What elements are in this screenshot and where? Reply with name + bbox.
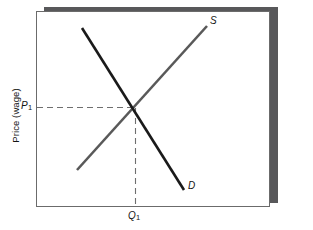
price-label-base: P [21, 100, 28, 111]
supply-curve [77, 26, 207, 170]
equilibrium-quantity-label: Q1 [128, 210, 140, 222]
demand-curve [82, 28, 184, 190]
chart-drawing-layer [0, 0, 313, 230]
equilibrium-price-label: P1 [21, 100, 32, 112]
price-label-subscript: 1 [28, 103, 32, 112]
quantity-label-subscript: 1 [136, 213, 140, 222]
supply-curve-label: S [210, 15, 217, 26]
quantity-label-base: Q [128, 210, 136, 221]
figure-canvas: Price (wage) P1 Q1 S D [0, 0, 313, 230]
demand-curve-label: D [188, 180, 195, 191]
